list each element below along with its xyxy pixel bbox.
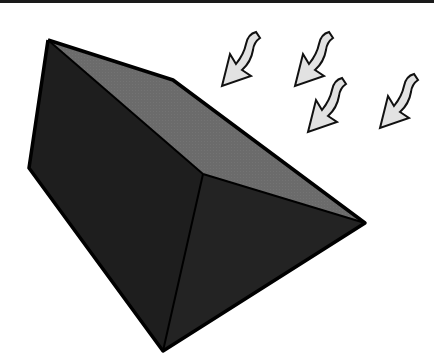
prism xyxy=(29,40,365,351)
prism-diagram xyxy=(0,0,434,364)
light-ray-2-arrow-icon xyxy=(295,32,333,86)
light-ray-4-arrow-icon xyxy=(380,74,418,128)
light-ray-1-arrow-icon xyxy=(222,32,260,86)
light-rays xyxy=(222,32,418,132)
light-ray-3-arrow-icon xyxy=(308,78,346,132)
